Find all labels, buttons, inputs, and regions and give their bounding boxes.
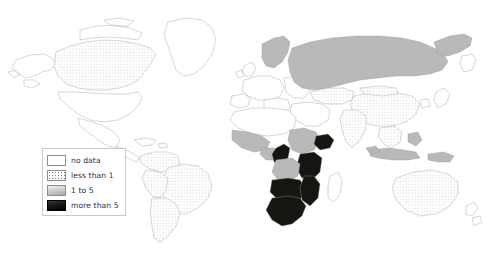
legend-swatch-no-data	[47, 155, 66, 166]
legend-swatch-less-than-1	[47, 170, 66, 181]
legend-item-no-data: no data	[47, 153, 122, 168]
map-legend: no data less than 1 1 to 5 more than 5	[42, 148, 126, 216]
legend-label-less-than-1: less than 1	[71, 171, 114, 180]
legend-swatch-more-than-5	[47, 200, 66, 211]
legend-swatch-1-to-5	[47, 185, 66, 196]
legend-label-1-to-5: 1 to 5	[71, 186, 94, 195]
world-choropleth-figure: no data less than 1 1 to 5 more than 5	[0, 0, 498, 254]
legend-label-no-data: no data	[71, 156, 101, 165]
legend-label-more-than-5: more than 5	[71, 201, 119, 210]
legend-item-more-than-5: more than 5	[47, 198, 122, 213]
legend-item-1-to-5: 1 to 5	[47, 183, 122, 198]
legend-item-less-than-1: less than 1	[47, 168, 122, 183]
